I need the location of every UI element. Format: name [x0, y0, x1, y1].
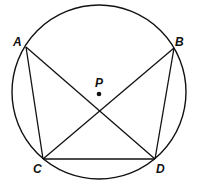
circle-diagram: A B C D P	[0, 0, 203, 190]
label-a: A	[12, 35, 22, 49]
label-b: B	[175, 35, 184, 49]
segment-ad	[26, 47, 155, 159]
center-point-p	[97, 92, 102, 97]
segment-bc	[43, 48, 174, 159]
label-d: D	[156, 162, 165, 176]
label-p: P	[95, 76, 104, 90]
label-c: C	[33, 162, 42, 176]
segment-bd	[155, 48, 174, 159]
